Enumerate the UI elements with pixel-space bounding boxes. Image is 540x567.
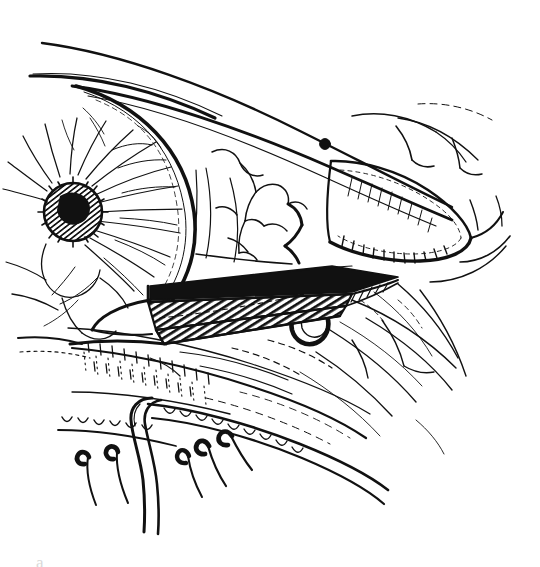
figure-root: a: [0, 0, 540, 567]
anatomical-line-illustration: [0, 0, 540, 567]
punctum-dot: [320, 139, 331, 150]
caption-fragment: a: [36, 558, 52, 567]
